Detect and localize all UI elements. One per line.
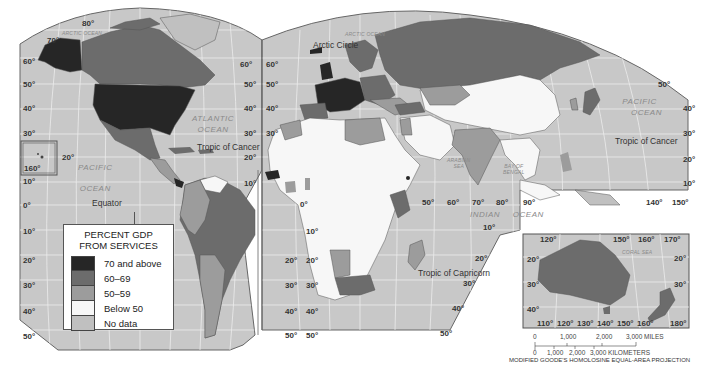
lon-label: 150°	[672, 198, 689, 207]
bengal-line2: BENGAL	[503, 169, 525, 175]
lat-label: 50°	[244, 80, 256, 89]
tropic-of-capricorn-label: Tropic of Capricorn	[418, 268, 490, 278]
lat-label: 40°	[23, 104, 35, 113]
arctic-circle-label: Arctic Circle	[313, 40, 358, 50]
lat-label: 70°	[47, 36, 59, 45]
tropic-of-cancer-left-label: Tropic of Cancer	[197, 142, 260, 152]
lat-label: 10°	[23, 227, 35, 236]
lat-label: 60°	[240, 60, 252, 69]
atlantic-line2: OCEAN	[192, 124, 234, 135]
lat-label: 20°	[285, 256, 297, 265]
lat-label: 50°	[658, 80, 670, 89]
pacific-ocean-right-label: PACIFIC OCEAN	[617, 96, 662, 118]
lat-label: 10°	[306, 227, 318, 236]
lat-label: 30°	[23, 129, 35, 138]
legend-pointer	[134, 212, 135, 224]
legend-label: No data	[104, 318, 137, 329]
pacific-ocean-left-label: PACIFIC OCEAN	[78, 162, 112, 194]
scale-km-label: 0	[533, 349, 537, 356]
lat-label: 20°	[683, 155, 695, 164]
inset-lon-label: 150°	[617, 319, 634, 328]
lon-label: 140°	[646, 198, 663, 207]
lat-label: 0°	[23, 201, 31, 210]
lat-label: 30°	[285, 281, 297, 290]
lat-label: 30°	[463, 279, 475, 288]
lat-label: 30°	[23, 281, 35, 290]
inset-lon-label: 150°	[613, 235, 630, 244]
lat-label: 50°	[266, 80, 278, 89]
lat-label: 40°	[23, 307, 35, 316]
lon-label: 50°	[422, 198, 434, 207]
inset-lon-label: 160°	[637, 319, 654, 328]
legend-item-no-data: No data	[64, 316, 173, 331]
lat-label: 30°	[683, 129, 695, 138]
lat-label: 20°	[475, 254, 487, 263]
lon-label: 80°	[496, 198, 508, 207]
lon-label: 90°	[523, 198, 535, 207]
tropic-of-cancer-right-label: Tropic of Cancer	[615, 136, 678, 146]
lon-label-zero: 0°	[300, 200, 308, 209]
legend-label: 70 and above	[104, 258, 162, 269]
equator-label: Equator	[92, 198, 122, 208]
lat-label: 50°	[440, 329, 452, 338]
arabian-line2: SEA	[447, 163, 470, 169]
inset-lat-label: 20°	[527, 255, 539, 264]
legend-item-below-50: Below 50	[64, 301, 173, 316]
inset-lon-label: 120°	[540, 235, 557, 244]
inset-lon-label: 180°	[670, 319, 687, 328]
legend: PERCENT GDP FROM SERVICES 70 and above 6…	[63, 224, 174, 330]
lat-label: 40°	[244, 104, 256, 113]
lat-label: 50°	[23, 80, 35, 89]
lat-label: 60°	[23, 57, 35, 66]
legend-title-line2: FROM SERVICES	[64, 240, 173, 251]
pacific-right-line1: PACIFIC	[617, 96, 662, 107]
lat-label: 20°	[306, 256, 318, 265]
legend-label: 50–59	[104, 288, 130, 299]
scale-km-label: 3,000 KILOMETERS	[590, 349, 650, 356]
lat-label: 20°	[62, 153, 74, 162]
legend-label: 60–69	[104, 273, 130, 284]
indian-line1: INDIAN	[470, 210, 500, 219]
lat-label: 50°	[306, 331, 318, 340]
legend-item-60-69: 60–69	[64, 271, 173, 286]
inset-lat-label: 20°	[674, 254, 686, 263]
lat-label: 50°	[23, 332, 35, 341]
atlantic-line1: ATLANTIC	[192, 113, 234, 124]
inset-lon-label: 140°	[597, 319, 614, 328]
legend-swatch	[71, 286, 95, 301]
legend-item-70-above: 70 and above	[64, 256, 173, 271]
inset-lon-label: 130°	[577, 319, 594, 328]
scale-miles-label: 1,000	[560, 333, 576, 340]
scale-miles-label: 0	[533, 333, 537, 340]
legend-swatch	[71, 301, 95, 316]
coral-sea-label: CORAL SEA	[622, 249, 652, 255]
lat-label: 30°	[306, 281, 318, 290]
legend-label: Below 50	[104, 303, 143, 314]
lon-label: 70°	[472, 198, 484, 207]
lat-label: 60°	[266, 60, 278, 69]
inset-lat-label: 30°	[674, 280, 686, 289]
lat-label: 20°	[23, 256, 35, 265]
lat-label: 40°	[452, 304, 464, 313]
atlantic-ocean-label: ATLANTIC OCEAN	[192, 113, 234, 135]
legend-items: 70 and above 60–69 50–59 Below 50 No dat…	[64, 256, 173, 331]
lat-label: 30°	[266, 129, 278, 138]
indian-line2: OCEAN	[513, 210, 544, 219]
arctic-ocean-left-label: ARCTIC OCEAN	[62, 30, 102, 36]
arctic-ocean-right-label: ARCTIC OCEAN	[345, 31, 385, 37]
lat-label: 20°	[244, 153, 256, 162]
scale-miles-label: 2,000	[596, 333, 612, 340]
lat-label: 40°	[306, 307, 318, 316]
lat-label: 10°	[683, 179, 695, 188]
hawaii-lon-label: 160°	[24, 164, 41, 173]
lat-label: 10°	[23, 177, 35, 186]
pacific-left-line1: PACIFIC	[78, 162, 112, 173]
inset-lat-label: 30°	[527, 280, 539, 289]
inset-lon-label: 160°	[638, 235, 655, 244]
indian-ocean-label: INDIAN OCEAN	[470, 209, 544, 220]
projection-label: MODIFIED GOODE'S HOMOLOSINE EQUAL-AREA P…	[509, 357, 690, 363]
scale-km-label: 1,000	[547, 349, 563, 356]
lat-label: 80°	[82, 19, 94, 28]
legend-title-line1: PERCENT GDP	[64, 229, 173, 240]
lat-label: 10°	[244, 179, 256, 188]
